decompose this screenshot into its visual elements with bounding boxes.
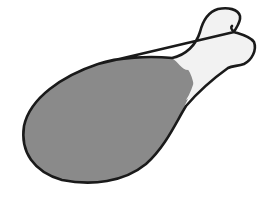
drumstick-illustration: [0, 0, 268, 197]
meat-shape: [23, 57, 194, 183]
drumstick-icon: [0, 0, 268, 197]
